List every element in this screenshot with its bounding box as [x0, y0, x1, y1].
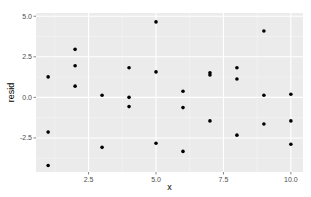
y-tick-label: 0.0 [22, 94, 32, 101]
data-point [46, 75, 50, 79]
data-point [154, 141, 158, 145]
data-point [73, 64, 77, 68]
data-point [289, 92, 293, 96]
data-point [154, 20, 158, 24]
data-point [262, 93, 266, 97]
data-point [46, 130, 50, 134]
x-tick-label: 7.5 [219, 176, 229, 183]
data-point [154, 70, 158, 74]
x-axis-ticks: 2.55.07.510.0 [84, 172, 298, 183]
y-tick-label: 5.0 [22, 13, 32, 20]
data-point [181, 89, 185, 93]
y-axis-title: resid [6, 83, 16, 103]
x-tick-label: 10.0 [284, 176, 298, 183]
x-axis-title: x [167, 182, 172, 192]
y-axis-ticks: -2.50.02.55.0 [20, 13, 36, 142]
data-point [208, 119, 212, 123]
data-point [235, 133, 239, 137]
data-point [289, 119, 293, 123]
scatter-chart: 2.55.07.510.0 -2.50.02.55.0 x resid [0, 0, 311, 197]
x-tick-label: 5.0 [151, 176, 161, 183]
data-point [127, 96, 131, 100]
y-tick-label: -2.5 [20, 134, 32, 141]
data-point [235, 66, 239, 70]
x-tick-label: 2.5 [84, 176, 94, 183]
data-point [127, 66, 131, 70]
data-point [100, 146, 104, 150]
plot-panel [36, 13, 303, 172]
data-point [73, 48, 77, 52]
data-point [208, 73, 212, 77]
data-point [181, 106, 185, 110]
data-point [262, 29, 266, 33]
data-point [127, 105, 131, 109]
data-point [73, 84, 77, 88]
data-point [235, 77, 239, 81]
data-point [46, 164, 50, 168]
data-point [289, 142, 293, 146]
y-tick-label: 2.5 [22, 53, 32, 60]
data-point [100, 93, 104, 97]
data-point [262, 122, 266, 126]
data-point [181, 150, 185, 154]
